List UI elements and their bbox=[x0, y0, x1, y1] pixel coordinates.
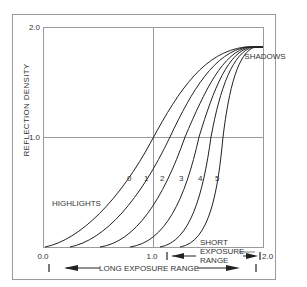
short-exposure-range: SHORT EXPOSURE RANGE bbox=[167, 238, 260, 265]
curve-3 bbox=[130, 47, 263, 247]
x-tick-0: 0.0 bbox=[37, 252, 49, 261]
curve-label-3: 3 bbox=[179, 174, 184, 183]
y-tick-2: 2.0 bbox=[29, 23, 41, 32]
highlights-label: HIGHLIGHTS bbox=[52, 199, 101, 208]
curve-label-4: 4 bbox=[198, 174, 203, 183]
long-exposure-range: LONG EXPOSURE RANGE bbox=[49, 264, 256, 273]
curve-label-1: 1 bbox=[144, 174, 149, 183]
curve-label-0: 0 bbox=[127, 174, 132, 183]
long-exposure-label: LONG EXPOSURE RANGE bbox=[99, 264, 199, 273]
y-axis-label: REFLECTION DENSITY bbox=[22, 63, 31, 156]
characteristic-curve-chart: 2.0 1.0 REFLECTION DENSITY 0.0 1.0 2.0 S… bbox=[0, 0, 307, 287]
outer-frame bbox=[13, 15, 276, 280]
curve-label-5: 5 bbox=[215, 174, 220, 183]
shadows-label: SHADOWS bbox=[244, 52, 285, 61]
x-tick-1: 1.0 bbox=[146, 252, 158, 261]
curve-4 bbox=[160, 47, 263, 247]
curve-label-2: 2 bbox=[160, 174, 165, 183]
curve-2 bbox=[100, 47, 263, 247]
short-exposure-label-1: SHORT bbox=[200, 238, 228, 247]
short-exposure-label-3: RANGE bbox=[200, 256, 228, 265]
x-tick-2: 2.0 bbox=[262, 252, 274, 261]
short-exposure-label-2: EXPOSURE bbox=[200, 247, 244, 256]
